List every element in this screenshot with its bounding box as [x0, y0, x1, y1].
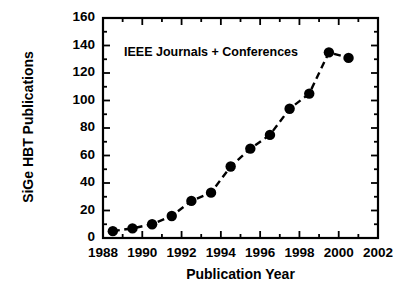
data-point-marker: [186, 196, 196, 206]
y-axis-tick-label: 140: [51, 37, 95, 52]
x-axis-title: Publication Year: [103, 266, 378, 282]
chart-figure: IEEE Journals + Conferences Publication …: [0, 0, 404, 294]
data-point-marker: [245, 143, 255, 153]
y-axis-tick-label: 40: [51, 174, 95, 189]
data-point-marker: [127, 223, 137, 233]
data-point-marker: [324, 47, 334, 57]
chart-annotation: IEEE Journals + Conferences: [124, 45, 298, 59]
data-point-marker: [225, 161, 235, 171]
data-point-marker: [343, 53, 353, 63]
x-axis-tick-label: 2002: [355, 245, 401, 260]
y-axis-tick-label: 100: [51, 92, 95, 107]
y-axis-tick-label: 80: [51, 119, 95, 134]
data-point-marker: [284, 104, 294, 114]
data-point-marker: [304, 88, 314, 98]
y-axis-title: SiGe HBT Publications: [20, 15, 36, 239]
data-point-marker: [265, 130, 275, 140]
data-point-marker: [167, 211, 177, 221]
data-point-marker: [206, 187, 216, 197]
data-series-line: [113, 52, 349, 231]
y-axis-tick-label: 20: [51, 202, 95, 217]
y-axis-tick-label: 60: [51, 147, 95, 162]
y-axis-tick-label: 160: [51, 9, 95, 24]
y-axis-tick-label: 0: [51, 229, 95, 244]
data-point-marker: [108, 226, 118, 236]
y-axis-tick-label: 120: [51, 64, 95, 79]
data-point-marker: [147, 219, 157, 229]
